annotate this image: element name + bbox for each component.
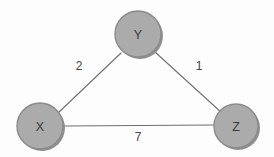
- node-y-label: Y: [134, 28, 143, 42]
- graph-canvas: Y X Z 2 1 7: [0, 0, 274, 157]
- edge-weight-group: 2 1 7: [76, 59, 203, 144]
- edge-x-y: [58, 53, 121, 113]
- edge-weight-x-z: 7: [135, 130, 142, 144]
- edge-weight-y-z: 1: [196, 59, 203, 73]
- node-x-label: X: [36, 120, 45, 134]
- graph-diagram: Y X Z 2 1 7: [0, 0, 274, 157]
- edge-y-z: [155, 52, 222, 113]
- node-z[interactable]: Z: [214, 104, 260, 150]
- node-y[interactable]: Y: [115, 11, 163, 59]
- node-z-label: Z: [232, 120, 240, 134]
- edge-x-z: [62, 125, 215, 126]
- edge-weight-x-y: 2: [76, 59, 83, 73]
- node-x[interactable]: X: [17, 103, 65, 151]
